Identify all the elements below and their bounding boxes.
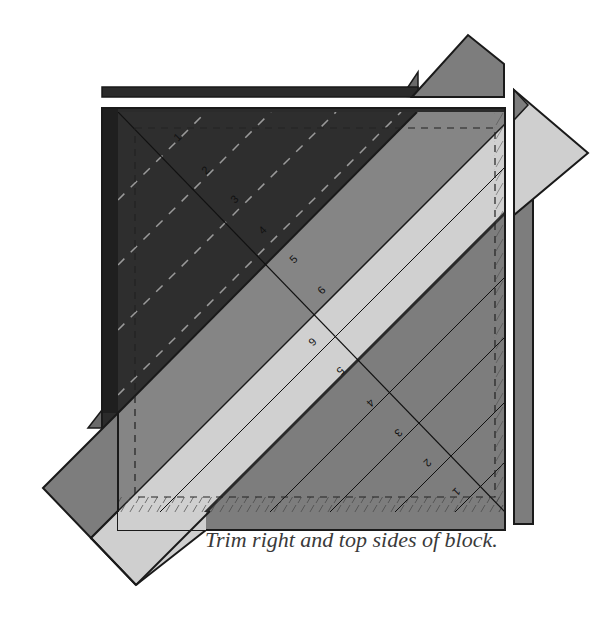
top-trimmed-strip [102,35,504,97]
right-trimmed-strip [514,90,588,524]
figure-caption: Trim right and top sides of block. [205,527,498,553]
top-trimmed-pentagon [412,35,504,97]
